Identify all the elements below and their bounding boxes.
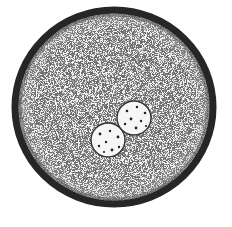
outer-cell	[15, 10, 213, 204]
nucleus-upper	[117, 101, 151, 135]
cell-illustration	[0, 0, 232, 227]
